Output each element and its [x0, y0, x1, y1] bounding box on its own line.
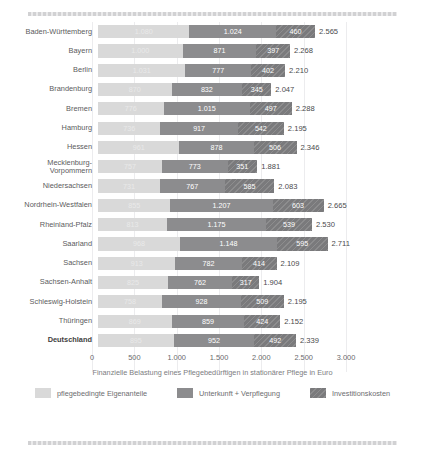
row-label: Thüringen [0, 317, 98, 325]
bar-total-label: 2.565 [315, 25, 338, 38]
row-plot: 7589285092.195 [98, 292, 425, 311]
legend-swatch [310, 388, 326, 398]
x-tick-label: 500 [128, 353, 140, 362]
bar-segment: 855 [98, 199, 170, 212]
bar-segment: 777 [185, 64, 251, 77]
row-label: Brandenburg [0, 85, 98, 93]
bar-total-label: 2.530 [312, 218, 335, 231]
chart-page: Baden-Württemberg1.0801.0244602.565Bayer… [0, 0, 425, 457]
bar-segment: 928 [162, 295, 241, 308]
bar-segment: 351 [228, 160, 258, 173]
table-row: Hamburg7369175422.195 [0, 118, 425, 137]
bar-total-label: 2.339 [296, 334, 319, 347]
bar-segment: 776 [98, 102, 164, 115]
table-row: Sachsen-Anhalt8257623171.904 [0, 273, 425, 292]
bar-total-label: 2.665 [324, 199, 347, 212]
table-row: Bremen7761.0154972.288 [0, 99, 425, 118]
x-tick-label: 1.500 [210, 353, 229, 362]
bar-segment: 345 [242, 83, 271, 96]
x-tick-label: 2.000 [252, 353, 271, 362]
bar-segment: 1.175 [167, 218, 266, 231]
row-label: Hessen [0, 143, 98, 151]
row-plot: 8551.2076032.665 [98, 196, 425, 215]
bar-total-label: 2.346 [297, 141, 320, 154]
x-tick-label: 3.000 [337, 353, 356, 362]
row-plot: 8708323452.047 [98, 80, 425, 99]
row-label: Rheinland-Pfalz [0, 221, 98, 229]
bar-segment: 1.015 [164, 102, 250, 115]
row-label: Sachsen [0, 259, 98, 267]
x-tick-label: 1.000 [167, 353, 186, 362]
row-plot: 8257623171.904 [98, 273, 425, 292]
table-row: Rheinland-Pfalz8131.1755392.530 [0, 215, 425, 234]
bar-segment: 825 [98, 276, 168, 289]
stacked-bar: 895952492 [98, 334, 296, 347]
bar-segment: 952 [174, 334, 255, 347]
bar-segment: 1.000 [98, 44, 183, 57]
row-label: Schleswig-Holstein [0, 298, 98, 306]
row-label: Mecklenburg- Vorpommern [0, 159, 98, 175]
row-plot: 7761.0154972.288 [98, 99, 425, 118]
bar-segment: 402 [251, 64, 285, 77]
bar-total-label: 2.109 [277, 257, 300, 270]
bar-total-label: 2.152 [280, 315, 303, 328]
stacked-bar: 1.0801.024460 [98, 25, 315, 38]
row-plot: 9137824142.109 [98, 254, 425, 273]
stacked-bar: 731767585 [98, 179, 274, 192]
legend-item[interactable]: Investitionskosten [310, 388, 390, 398]
table-row: Saarland9681.1485952.711 [0, 234, 425, 253]
bar-total-label: 2.711 [328, 237, 350, 250]
table-row: Hessen9618785062.346 [0, 138, 425, 157]
bar-segment: 917 [160, 122, 238, 135]
bar-segment: 767 [160, 179, 225, 192]
stacked-bar: 7761.015497 [98, 102, 292, 115]
bar-segment: 1.207 [170, 199, 272, 212]
row-plot: 9618785062.346 [98, 138, 425, 157]
bar-total-label: 2.047 [271, 83, 294, 96]
bar-segment: 585 [225, 179, 275, 192]
bar-total-label: 2.195 [284, 295, 307, 308]
row-label: Niedersachsen [0, 182, 98, 190]
bar-segment: 1.031 [98, 64, 185, 77]
bar-segment: 1.024 [189, 25, 276, 38]
stacked-bar: 757773351 [98, 160, 257, 173]
row-label: Deutschland [0, 336, 98, 344]
bar-segment: 736 [98, 122, 160, 135]
x-axis-title: Finanzielle Belastung eines Pflegebedürf… [0, 368, 425, 377]
bar-total-label: 2.268 [290, 44, 313, 57]
row-label: Baden-Württemberg [0, 28, 98, 36]
stacked-bar: 869859424 [98, 315, 280, 328]
bar-total-label: 1.904 [259, 276, 282, 289]
legend-swatch [177, 388, 193, 398]
bar-segment: 1.080 [98, 25, 189, 38]
x-axis: 05001.0001.5002.0002.5003.000 [92, 353, 425, 367]
table-row: Thüringen8698594242.152 [0, 311, 425, 330]
stacked-bar: 1.000871397 [98, 44, 290, 57]
stacked-bar: 961878506 [98, 141, 297, 154]
legend-item[interactable]: pflegebedingte Eigenanteile [35, 388, 147, 398]
table-row: Niedersachsen7317675852.083 [0, 176, 425, 195]
bar-segment: 869 [98, 315, 172, 328]
table-row: Bayern1.0008713972.268 [0, 41, 425, 60]
bar-segment: 497 [250, 102, 292, 115]
bar-segment: 1.148 [180, 237, 277, 250]
bar-segment: 870 [98, 83, 172, 96]
bar-total-label: 2.195 [284, 122, 307, 135]
bar-segment: 773 [162, 160, 227, 173]
legend-label: Investitionskosten [332, 389, 390, 398]
legend-label: Unterkunft + Verpflegung [199, 389, 280, 398]
bar-segment: 460 [276, 25, 315, 38]
bar-segment: 913 [98, 257, 175, 270]
bar-segment: 317 [232, 276, 259, 289]
x-tick-label: 0 [90, 353, 94, 362]
table-row: Berlin1.0317774022.210 [0, 61, 425, 80]
bar-segment: 813 [98, 218, 167, 231]
row-plot: 9681.1485952.711 [98, 234, 425, 253]
row-label: Saarland [0, 240, 98, 248]
stacked-bar: 736917542 [98, 122, 284, 135]
bar-segment: 414 [242, 257, 277, 270]
bar-segment: 762 [168, 276, 233, 289]
row-label: Nordrhein-Westfalen [0, 201, 98, 209]
row-plot: 8698594242.152 [98, 311, 425, 330]
legend-item[interactable]: Unterkunft + Verpflegung [177, 388, 280, 398]
